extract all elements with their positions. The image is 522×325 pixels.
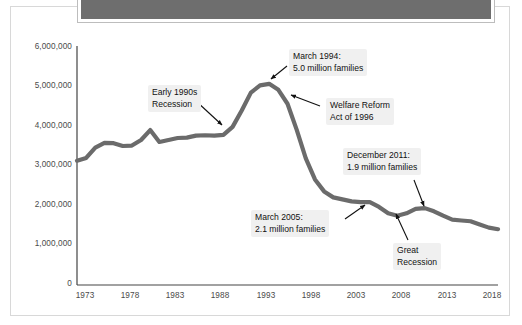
y-tick-6000000: 6,000,000 [12,42,72,51]
leader-march-1994 [271,66,287,79]
chart-page: 6,000,000 5,000,000 4,000,000 3,000,000 … [0,0,522,325]
data-series-line [77,84,498,229]
y-tick-1000000: 1,000,000 [12,239,72,248]
x-tick-2013: 2013 [430,291,464,300]
annotation-line-2: 2.1 million families [255,224,325,236]
y-tick-4000000: 4,000,000 [12,121,72,130]
x-tick-1983: 1983 [158,291,192,300]
x-tick-1973: 1973 [68,291,102,300]
annotation-welfare-reform-1996: Welfare Reform Act of 1996 [326,98,394,125]
annotation-line-2: Recession [152,99,197,111]
x-tick-2003: 2003 [339,291,373,300]
line-chart [0,0,522,325]
y-tick-3000000: 3,000,000 [12,160,72,169]
leader-welfare-reform-1996 [291,95,320,106]
annotation-line-1: March 1994: [293,51,363,63]
y-tick-5000000: 5,000,000 [12,81,72,90]
x-tick-1993: 1993 [249,291,283,300]
annotation-line-1: Welfare Reform [330,100,390,112]
leader-december-2011 [414,180,424,206]
annotation-march-2005: March 2005: 2.1 million families [251,210,329,237]
x-tick-1988: 1988 [203,291,237,300]
annotation-line-2: 5.0 million families [293,63,363,75]
leader-march-2005 [345,205,365,219]
y-tick-2000000: 2,000,000 [12,200,72,209]
x-tick-2008: 2008 [384,291,418,300]
annotation-line-1: December 2011: [347,150,417,162]
annotation-december-2011: December 2011: 1.9 million families [343,148,421,175]
annotation-line-1: Early 1990s [152,87,197,99]
annotation-early-1990s-recession: Early 1990s Recession [148,85,201,112]
annotation-line-2: Recession [397,257,437,269]
annotation-line-2: 1.9 million families [347,162,417,174]
annotation-line-2: Act of 1996 [330,112,390,124]
x-tick-1978: 1978 [113,291,147,300]
annotation-line-1: March 2005: [255,212,325,224]
annotation-march-1994: March 1994: 5.0 million families [289,49,367,76]
x-tick-2018: 2018 [475,291,509,300]
x-tick-1998: 1998 [294,291,328,300]
annotation-line-1: Great [397,245,437,257]
y-tick-0: 0 [12,279,72,288]
annotation-great-recession: Great Recession [393,243,441,270]
leader-great-recession [396,214,408,240]
